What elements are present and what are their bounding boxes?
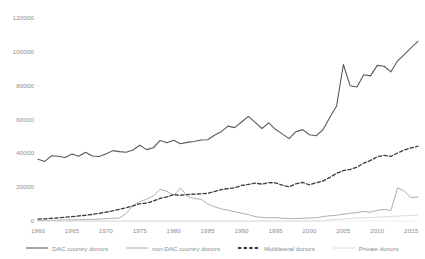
legend-item[interactable]: Multilateral donors xyxy=(238,245,315,252)
series-line xyxy=(38,146,418,219)
legend-label: non-DAC country donors xyxy=(152,245,220,252)
chart-legend: DAC country donorsnon-DAC country donors… xyxy=(0,240,425,256)
plot-area xyxy=(0,0,425,259)
legend-swatch-icon xyxy=(26,245,48,251)
series-line xyxy=(38,41,418,161)
legend-label: Multilateral donors xyxy=(264,245,315,252)
legend-swatch-icon xyxy=(126,245,148,251)
legend-label: Private donors xyxy=(359,245,399,252)
series-line xyxy=(38,215,418,221)
legend-swatch-icon xyxy=(333,245,355,251)
series-line xyxy=(38,188,418,221)
legend-item[interactable]: DAC country donors xyxy=(26,245,108,252)
legend-item[interactable]: non-DAC country donors xyxy=(126,245,220,252)
legend-swatch-icon xyxy=(238,245,260,251)
legend-item[interactable]: Private donors xyxy=(333,245,399,252)
chart-container: 020000400006000080000100000120000 196019… xyxy=(0,0,425,259)
legend-label: DAC country donors xyxy=(52,245,108,252)
